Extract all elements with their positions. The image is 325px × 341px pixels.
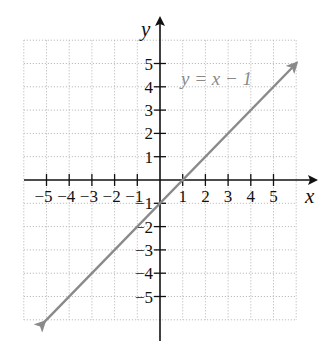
y-tick-label: −5 — [135, 288, 153, 307]
y-tick-label: 1 — [145, 148, 154, 167]
x-tick-label: −5 — [34, 187, 52, 206]
x-tick-label: 4 — [247, 187, 256, 206]
x-axis-label: x — [304, 184, 315, 208]
y-tick-label: 2 — [145, 124, 154, 143]
y-tick-label: −1 — [135, 194, 153, 213]
y-tick-label: −3 — [135, 241, 153, 260]
equation-label: y = x − 1 — [179, 68, 252, 89]
y-tick-label: 3 — [145, 101, 154, 120]
x-tick-label: 2 — [201, 187, 210, 206]
x-tick-label: 3 — [224, 187, 233, 206]
coordinate-plane: −5−4−3−2−11234554321−1−2−3−4−5 y x y = x… — [0, 0, 325, 341]
y-axis-label: y — [139, 17, 151, 41]
y-tick-label: −4 — [135, 264, 154, 283]
x-tick-label: 1 — [178, 187, 187, 206]
y-tick-label: 4 — [145, 78, 154, 97]
x-tick-label: −4 — [57, 187, 76, 206]
x-tick-label: 5 — [269, 187, 278, 206]
x-tick-label: −2 — [103, 187, 121, 206]
y-tick-label: 5 — [145, 55, 154, 74]
x-tick-label: −3 — [80, 187, 98, 206]
